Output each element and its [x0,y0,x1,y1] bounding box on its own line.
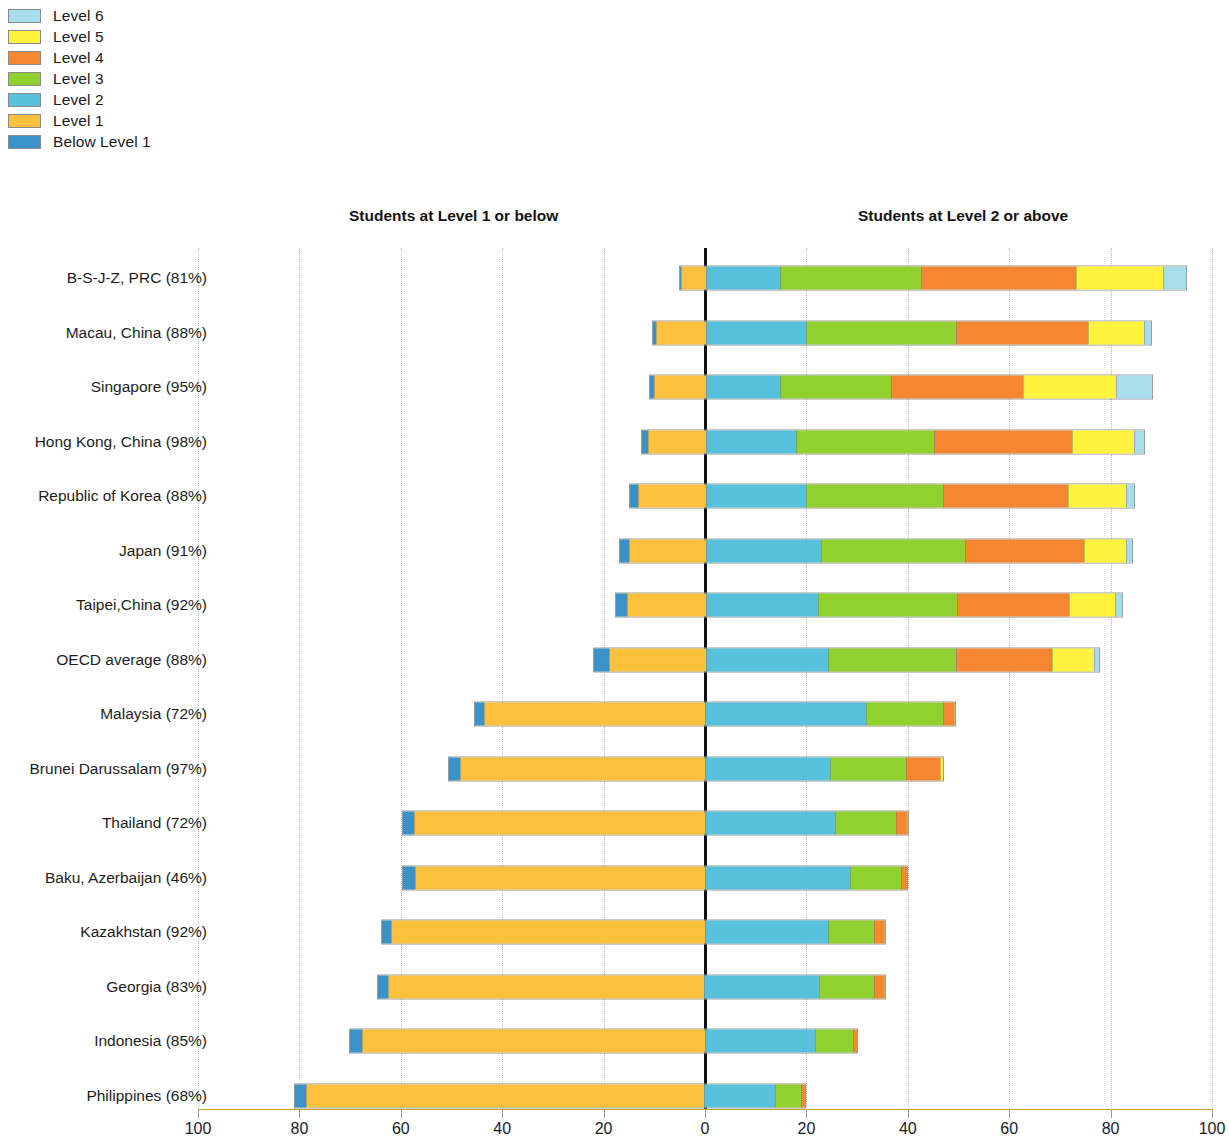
bar-segment-l2[interactable] [706,430,796,453]
bar-segment-l1[interactable] [414,812,704,835]
bar-segment-l3[interactable] [806,321,956,344]
bar-segment-l1[interactable] [638,485,706,508]
bar-segment-l2[interactable] [705,921,829,944]
bar-segment-l5[interactable] [907,812,908,835]
bar-segment-l2[interactable] [706,267,780,290]
bar-segment-l3[interactable] [828,921,874,944]
bar-segment-l4[interactable] [956,648,1053,671]
bar-segment-l5[interactable] [954,703,955,726]
bar-segment-l2[interactable] [706,539,822,562]
bar-segment-l3[interactable] [850,866,901,889]
bar-segment-l4[interactable] [965,539,1084,562]
bar-row[interactable] [448,756,944,781]
bar-row[interactable] [377,974,886,999]
bar-segment-l4[interactable] [874,921,884,944]
bar-segment-l5[interactable] [1052,648,1093,671]
bar-row[interactable] [381,920,886,945]
bar-segment-below1[interactable] [449,757,460,780]
bar-segment-below1[interactable] [594,648,609,671]
bar-segment-l2[interactable] [706,376,780,399]
bar-segment-l2[interactable] [705,812,835,835]
bar-segment-l3[interactable] [835,812,897,835]
bar-segment-l5[interactable] [1076,267,1163,290]
bar-segment-l2[interactable] [706,648,828,671]
bar-segment-l2[interactable] [705,757,830,780]
bar-segment-l4[interactable] [934,430,1072,453]
bar-row[interactable] [593,647,1100,672]
bar-segment-l6[interactable] [1115,594,1122,617]
bar-segment-l4[interactable] [906,757,939,780]
bar-segment-below1[interactable] [403,866,415,889]
bar-segment-l3[interactable] [819,975,874,998]
bar-segment-l3[interactable] [828,648,956,671]
bar-segment-l5[interactable] [884,975,885,998]
bar-segment-l5[interactable] [1088,321,1144,344]
bar-segment-l4[interactable] [801,1084,805,1107]
bar-segment-l5[interactable] [1068,485,1126,508]
bar-segment-l1[interactable] [654,376,706,399]
bar-segment-below1[interactable] [620,539,630,562]
bar-segment-below1[interactable] [378,975,388,998]
bar-segment-l6[interactable] [1126,485,1134,508]
bar-row[interactable] [652,320,1152,345]
bar-segment-l1[interactable] [460,757,705,780]
bar-segment-below1[interactable] [616,594,627,617]
bar-segment-l1[interactable] [609,648,705,671]
bar-row[interactable] [402,811,909,836]
bar-segment-l2[interactable] [706,594,819,617]
bar-segment-l4[interactable] [943,703,954,726]
bar-segment-l6[interactable] [1134,430,1144,453]
bar-segment-l5[interactable] [1023,376,1115,399]
bar-row[interactable] [615,593,1123,618]
bar-row[interactable] [649,375,1152,400]
bar-segment-l3[interactable] [780,267,921,290]
bar-segment-below1[interactable] [630,485,638,508]
bar-segment-l1[interactable] [362,1030,705,1053]
bar-segment-l3[interactable] [821,539,964,562]
bar-segment-l1[interactable] [415,866,704,889]
bar-segment-below1[interactable] [382,921,391,944]
bar-segment-l5[interactable] [940,757,944,780]
bar-segment-l1[interactable] [648,430,706,453]
bar-segment-l2[interactable] [704,975,819,998]
bar-segment-l2[interactable] [704,1084,774,1107]
bar-segment-l1[interactable] [391,921,705,944]
bar-segment-l3[interactable] [830,757,906,780]
bar-segment-l5[interactable] [1072,430,1134,453]
bar-segment-l3[interactable] [866,703,944,726]
bar-row[interactable] [629,484,1135,509]
bar-row[interactable] [402,865,908,890]
bar-segment-l1[interactable] [681,267,706,290]
bar-segment-l6[interactable] [1126,539,1132,562]
bar-segment-l6[interactable] [1163,267,1186,290]
bar-segment-l3[interactable] [796,430,934,453]
bar-segment-below1[interactable] [403,812,415,835]
bar-segment-l2[interactable] [705,866,850,889]
bar-segment-l4[interactable] [901,866,908,889]
bar-segment-l3[interactable] [775,1084,802,1107]
bar-segment-l1[interactable] [627,594,706,617]
bar-segment-l5[interactable] [884,921,885,944]
bar-segment-below1[interactable] [295,1084,306,1107]
bar-segment-l1[interactable] [484,703,705,726]
bar-segment-l4[interactable] [891,376,1023,399]
bar-segment-l2[interactable] [705,703,866,726]
bar-segment-l4[interactable] [943,485,1068,508]
bar-segment-l5[interactable] [1084,539,1126,562]
bar-segment-l1[interactable] [306,1084,704,1107]
bar-segment-l4[interactable] [896,812,907,835]
bar-segment-l3[interactable] [806,485,943,508]
bar-row[interactable] [679,266,1187,291]
bar-row[interactable] [349,1029,859,1054]
bar-segment-below1[interactable] [475,703,484,726]
bar-segment-l1[interactable] [656,321,706,344]
bar-segment-l6[interactable] [1094,648,1100,671]
bar-row[interactable] [641,429,1145,454]
bar-row[interactable] [474,702,956,727]
bar-segment-l4[interactable] [956,321,1088,344]
bar-segment-l3[interactable] [818,594,957,617]
bar-row[interactable] [619,538,1133,563]
bar-segment-l6[interactable] [1144,321,1151,344]
bar-segment-l3[interactable] [780,376,892,399]
bar-segment-l6[interactable] [1116,376,1152,399]
